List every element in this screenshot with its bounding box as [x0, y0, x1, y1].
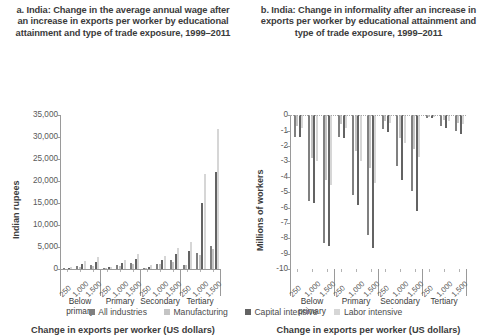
y-tick-mark	[287, 192, 290, 193]
bar	[137, 254, 139, 269]
bar	[374, 115, 376, 183]
x-tick-mark	[459, 269, 460, 272]
legend-item: All industries	[89, 307, 147, 317]
bar	[164, 256, 166, 270]
x-group-label: Tertiary	[422, 297, 466, 306]
legend-item: Manufacturing	[164, 307, 228, 317]
bar	[190, 242, 192, 269]
x-tick-mark	[356, 269, 357, 272]
y-tick-label: 20,000	[33, 177, 58, 185]
bar	[389, 115, 391, 123]
legend-swatch	[89, 309, 95, 315]
bar	[316, 115, 318, 161]
panel-b-x-ticks	[290, 269, 466, 279]
bar	[84, 261, 86, 269]
bar	[330, 115, 332, 184]
bar	[418, 115, 420, 157]
x-tick-mark	[371, 269, 372, 272]
x-tick-mark	[327, 269, 328, 272]
panel-a-x-axis-title: Change in exports per worker (US dollars…	[0, 325, 246, 335]
x-tick-mark	[400, 269, 401, 272]
chart-legend: All industriesManufacturingCapital inten…	[0, 307, 491, 317]
x-tick-mark	[341, 269, 342, 272]
legend-label: All industries	[98, 307, 147, 317]
x-tick-mark	[415, 269, 416, 272]
legend-swatch	[245, 309, 251, 315]
y-tick-mark	[57, 225, 60, 226]
y-tick-mark	[287, 208, 290, 209]
x-tick-mark	[385, 269, 386, 272]
x-tick-mark	[312, 269, 313, 272]
panel-b-title: b. India: Change in informality after an…	[246, 0, 491, 39]
legend-label: Labor intensive	[344, 307, 402, 317]
legend-item: Capital intensive	[245, 307, 318, 317]
y-tick-mark	[287, 269, 290, 270]
y-tick-mark	[57, 159, 60, 160]
bar	[177, 248, 179, 269]
bar	[404, 115, 406, 143]
legend-label: Capital intensive	[254, 307, 317, 317]
y-tick-label: 35,000	[33, 111, 58, 119]
x-group-label: Secondary	[378, 297, 422, 306]
bar	[204, 174, 206, 269]
bar	[97, 257, 99, 269]
y-tick-label: 10,000	[33, 221, 58, 229]
zero-axis-line	[60, 269, 220, 270]
panel-a: a. India: Change in the average annual w…	[0, 0, 246, 300]
y-tick-mark	[57, 203, 60, 204]
panel-a-title: a. India: Change in the average annual w…	[0, 0, 246, 39]
bar	[301, 115, 303, 127]
panel-b: b. India: Change in informality after an…	[246, 0, 491, 300]
panel-b-x-axis-title: Change in exports per worker (US dollars…	[246, 325, 491, 335]
legend-item: Labor intensive	[334, 307, 402, 317]
bar	[217, 129, 219, 269]
y-tick-mark	[287, 131, 290, 132]
x-group-label: Primary	[100, 297, 140, 306]
y-tick-mark	[287, 146, 290, 147]
y-tick-label: 15,000	[33, 199, 58, 207]
panel-a-x-ticks	[60, 269, 220, 279]
bar	[360, 115, 362, 161]
y-tick-mark	[287, 238, 290, 239]
legend-swatch	[164, 309, 170, 315]
x-group-label: Primary	[334, 297, 378, 306]
y-tick-mark	[287, 177, 290, 178]
bar	[462, 115, 464, 124]
y-tick-mark	[287, 161, 290, 162]
y-tick-mark	[57, 247, 60, 248]
x-tick-mark	[444, 269, 445, 272]
y-tick-mark	[57, 115, 60, 116]
x-tick-mark	[297, 269, 298, 272]
bar	[124, 260, 126, 270]
legend-swatch	[334, 309, 340, 315]
y-tick-label: 30,000	[33, 133, 58, 141]
y-tick-label: 25,000	[33, 155, 58, 163]
panel-b-bars-region	[290, 115, 466, 269]
bar	[345, 115, 347, 127]
x-tick-mark	[429, 269, 430, 272]
zero-axis-line	[290, 115, 466, 116]
y-tick-mark	[57, 137, 60, 138]
y-tick-mark	[287, 223, 290, 224]
x-group-label: Secondary	[140, 297, 180, 306]
y-tick-mark	[287, 254, 290, 255]
panel-a-bars-region	[60, 115, 220, 269]
panel-a-y-axis-label: Indian rupees	[11, 181, 21, 240]
y-tick-mark	[57, 181, 60, 182]
x-group-label: Tertiary	[180, 297, 220, 306]
y-tick-label: 5,000	[38, 243, 59, 251]
legend-label: Manufacturing	[173, 307, 227, 317]
panel-b-y-axis-label: Millions of workers	[255, 170, 265, 252]
